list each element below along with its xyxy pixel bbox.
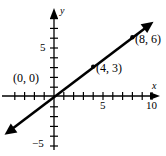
y-axis-label: y [60, 6, 64, 16]
y-axis [50, 8, 58, 150]
point-marker-8-6 [130, 35, 134, 39]
point-label-origin: (0, 0) [13, 72, 39, 84]
point-marker-4-3 [91, 64, 95, 68]
y-axis-arrowhead [50, 8, 58, 18]
x-tick-label-10: 10 [146, 100, 157, 111]
coordinate-plane-figure: y x 5 10 5 −5 (0, 0) (4, 3) (8, 6) [0, 0, 166, 156]
x-tick-label-5: 5 [100, 100, 106, 111]
point-label-4-3: (4, 3) [96, 62, 122, 74]
point-label-8-6: (8, 6) [135, 33, 161, 45]
x-axis [2, 92, 160, 100]
x-axis-label: x [152, 81, 156, 91]
y-tick-label-5: 5 [40, 42, 46, 53]
y-tick-label-negative-5: −5 [32, 138, 44, 149]
